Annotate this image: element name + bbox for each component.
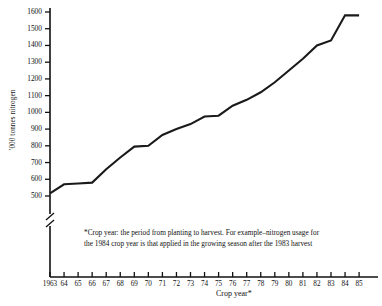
- data-series-line: [50, 15, 359, 193]
- y-axis-tick-label: 1200: [14, 74, 42, 83]
- y-axis-tick-label: 1500: [14, 24, 42, 33]
- footnote-line-2: the 1984 crop year is that applied in th…: [84, 239, 374, 250]
- y-axis-tick-label: 800: [14, 141, 42, 150]
- y-axis-tick-label: 1600: [14, 7, 42, 16]
- nitrogen-usage-chart: '000 tonnes nitrogen 5006007008009001000…: [0, 0, 382, 306]
- footnote-line-1: *Crop year: the period from planting to …: [84, 228, 374, 239]
- y-axis-tick-label: 1300: [14, 57, 42, 66]
- y-axis-tick-label: 700: [14, 158, 42, 167]
- y-axis-tick-label: 1000: [14, 107, 42, 116]
- axis-break-mark-upper: [46, 213, 54, 220]
- y-axis-tick-label: 500: [14, 191, 42, 200]
- plot-area: [0, 0, 382, 306]
- y-axis-tick-label: 1400: [14, 40, 42, 49]
- y-axis-tick-label: 600: [14, 174, 42, 183]
- x-axis-title: Crop year*: [216, 289, 252, 298]
- footnote: *Crop year: the period from planting to …: [84, 228, 374, 249]
- y-axis-tick-label: 1100: [14, 91, 42, 100]
- axis-break-mark-lower: [46, 220, 54, 227]
- y-axis-tick-label: 900: [14, 124, 42, 133]
- x-axis-tick-label: 85: [351, 280, 367, 288]
